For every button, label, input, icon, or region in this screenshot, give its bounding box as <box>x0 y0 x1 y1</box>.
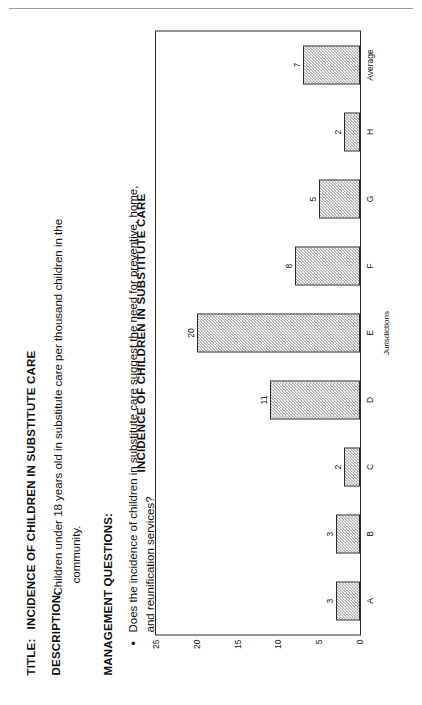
title-row: TITLE: INCIDENCE OF CHILDREN IN SUBSTITU… <box>25 35 37 675</box>
chart-bar-value-label: 3 <box>325 598 335 603</box>
chart-plot-outer: 2520151050 3A3B2C11D20E8F5G2H7Average <box>155 30 361 635</box>
chart-bar-value-label: 11 <box>259 395 269 404</box>
chart-plot-area: 2520151050 3A3B2C11D20E8F5G2H7Average <box>155 30 361 635</box>
chart-title: INCIDENCE OF CHILDREN IN SUBSTITUTE CARE <box>135 30 147 635</box>
chart-x-tick: D <box>365 396 375 402</box>
chart-bar-slot: 7Average <box>156 31 360 98</box>
chart-bar-slot: 3B <box>156 500 360 567</box>
title-value: INCIDENCE OF CHILDREN IN SUBSTITUTE CARE <box>25 350 37 629</box>
chart-bar-value-label: 2 <box>333 129 343 134</box>
chart-bar-value-label: 20 <box>186 328 196 337</box>
chart-bar-value-label: 8 <box>284 263 294 268</box>
chart-x-tick: A <box>365 598 375 604</box>
chart-bar: 5 <box>319 179 360 218</box>
chart-x-tick: E <box>365 330 375 336</box>
chart-y-tick: 0 <box>355 639 365 644</box>
description-row: DESCRIPTION: Children under 18 years old… <box>50 35 86 675</box>
chart-x-tick: F <box>365 263 375 268</box>
chart-bar-slot: 20E <box>156 299 360 366</box>
chart-bars: 3A3B2C11D20E8F5G2H7Average <box>156 31 360 634</box>
chart-x-tick: G <box>365 195 375 202</box>
chart-bar: 3 <box>336 514 360 553</box>
description-line-1: Children under 18 years old in substitut… <box>52 218 64 595</box>
page-border: TITLE: INCIDENCE OF CHILDREN IN SUBSTITU… <box>9 8 413 697</box>
bar-chart: INCIDENCE OF CHILDREN IN SUBSTITUTE CARE… <box>135 30 397 675</box>
chart-bar-slot: 2C <box>156 433 360 500</box>
chart-bar: 2 <box>344 447 360 486</box>
chart-bar-slot: 3A <box>156 567 360 634</box>
chart-bar-slot: 11D <box>156 366 360 433</box>
chart-bar-slot: 8F <box>156 232 360 299</box>
chart-y-tick: 5 <box>314 639 324 644</box>
title-label: TITLE: <box>25 629 37 675</box>
management-questions-heading: MANAGEMENT QUESTIONS: <box>102 35 114 675</box>
chart-y-tick: 20 <box>192 639 202 648</box>
chart-y-tick: 15 <box>233 639 243 648</box>
chart-bar: 7 <box>303 45 360 84</box>
description-label: DESCRIPTION: <box>50 595 62 675</box>
chart-y-tick: 10 <box>273 639 283 648</box>
chart-bar: 2 <box>344 112 360 151</box>
chart-bar-value-label: 3 <box>325 531 335 536</box>
description-line-2: community. <box>68 218 86 595</box>
chart-y-tick: 25 <box>151 639 161 648</box>
chart-x-tick: H <box>365 128 375 134</box>
chart-bar: 3 <box>336 581 360 620</box>
chart-x-tick: B <box>365 531 375 537</box>
description-value: Children under 18 years old in substitut… <box>50 218 86 595</box>
chart-bar-value-label: 7 <box>292 62 302 67</box>
chart-bar: 8 <box>295 246 360 285</box>
document-canvas: TITLE: INCIDENCE OF CHILDREN IN SUBSTITU… <box>9 8 413 697</box>
chart-bar-slot: 2H <box>156 98 360 165</box>
chart-bar-value-label: 5 <box>308 196 318 201</box>
chart-bar-slot: 5G <box>156 165 360 232</box>
chart-bar-value-label: 2 <box>333 464 343 469</box>
chart-bar: 20 <box>197 313 360 352</box>
chart-x-axis-label: Jurisdictions <box>382 30 391 635</box>
chart-x-tick: C <box>365 463 375 469</box>
chart-bar: 11 <box>270 380 360 419</box>
chart-x-tick: Average <box>365 49 375 81</box>
